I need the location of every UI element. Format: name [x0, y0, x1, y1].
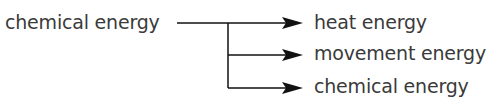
output-label-movement: movement energy: [314, 42, 486, 64]
output-label-chemical: chemical energy: [314, 75, 469, 97]
output-label-heat: heat energy: [314, 11, 427, 33]
